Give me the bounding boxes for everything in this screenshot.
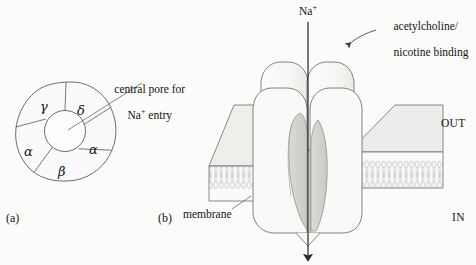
membrane-label: membrane bbox=[183, 208, 232, 221]
subunit-label-alpha-left: α bbox=[24, 145, 33, 160]
sodium-superscript-b: + bbox=[312, 3, 317, 12]
binding-site-callout: acetylcholine/ nicotine binding bbox=[382, 7, 474, 71]
sodium-ion-label: Na+ bbox=[299, 4, 317, 18]
membrane-right-front-face bbox=[349, 152, 443, 188]
binding-callout-line2: nicotine binding bbox=[394, 46, 469, 58]
intracellular-side-label: IN bbox=[452, 211, 465, 224]
extracellular-side-label: OUT bbox=[441, 117, 466, 130]
subunit-label-alpha-right: α bbox=[89, 143, 98, 158]
binding-callout-line1: acetylcholine/ bbox=[394, 20, 459, 32]
panel-b-tag: (b) bbox=[158, 212, 172, 225]
subunit-label-beta: β bbox=[58, 165, 66, 180]
membrane-right-top-face bbox=[349, 105, 443, 152]
central-pore-callout-line2: Na+ entry bbox=[128, 109, 172, 121]
panel-a-tag: (a) bbox=[6, 212, 19, 225]
central-pore-callout-line1: central pore for bbox=[114, 83, 185, 95]
subunit-label-delta: δ bbox=[77, 104, 85, 119]
central-pore-callout: central pore for Na+ entry bbox=[97, 70, 191, 135]
subunit-label-gamma: γ bbox=[40, 100, 48, 115]
figure-root: central pore for Na+ entry γ δ α β α (a)… bbox=[0, 0, 476, 265]
binding-callout-leader bbox=[348, 30, 376, 45]
